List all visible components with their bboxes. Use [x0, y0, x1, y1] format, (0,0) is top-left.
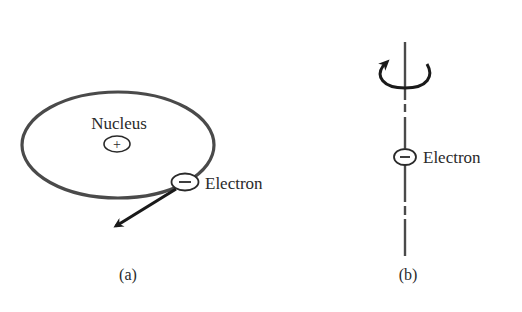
- panel-b: Electron (b): [380, 42, 481, 284]
- panel-a: Nucleus + Electron (a): [22, 92, 263, 284]
- nucleus-icon: +: [104, 136, 130, 152]
- atom-diagram: Nucleus + Electron (a) Electron: [0, 0, 522, 312]
- caption-b: (b): [399, 266, 418, 284]
- electron-icon: [394, 149, 416, 165]
- electron-label-a: Electron: [205, 174, 263, 193]
- nucleus-label: Nucleus: [91, 114, 147, 133]
- caption-a: (a): [119, 266, 137, 284]
- electron-icon: [172, 174, 199, 191]
- nucleus-charge: +: [113, 137, 121, 152]
- electron-label-b: Electron: [423, 148, 481, 167]
